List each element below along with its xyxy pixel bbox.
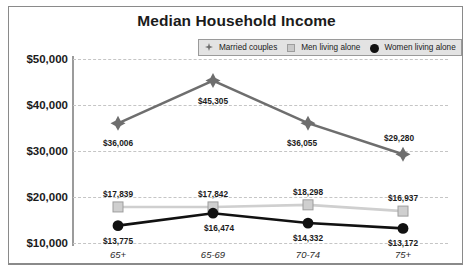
data-point-label: $16,474: [204, 223, 234, 233]
series-line: [118, 81, 403, 155]
data-point-label: $45,305: [198, 96, 228, 106]
x-axis-tick-label: 65+: [110, 249, 126, 260]
data-point-label: $18,298: [293, 187, 323, 197]
data-point-label: $17,839: [103, 189, 133, 199]
data-point-label: $16,937: [388, 193, 418, 203]
data-point-marker[interactable]: [111, 116, 126, 131]
data-point-label: $36,006: [103, 138, 133, 148]
data-point-label: $36,055: [287, 138, 317, 148]
series-line: [118, 205, 403, 211]
data-point-label: $14,332: [293, 233, 323, 243]
data-point-label: $29,280: [384, 133, 414, 143]
data-point-marker[interactable]: [208, 208, 219, 219]
x-axis-tick-labels: 65+65-6970-7475+: [73, 249, 448, 265]
x-axis-tick-label: 70-74: [296, 249, 320, 260]
x-axis-tick-label: 65-69: [201, 249, 225, 260]
chart-container: Median Household Income Married couples …: [0, 0, 473, 273]
data-point-label: $13,172: [388, 238, 418, 248]
data-point-label: $17,842: [198, 189, 228, 199]
data-point-marker[interactable]: [113, 220, 124, 231]
data-point-marker[interactable]: [303, 200, 313, 210]
data-point-marker[interactable]: [206, 73, 221, 88]
data-point-marker[interactable]: [396, 147, 411, 162]
series-line: [118, 213, 403, 228]
x-axis-tick-label: 75+: [395, 249, 411, 260]
data-point-marker[interactable]: [398, 223, 409, 234]
chart-baseline: [8, 264, 463, 265]
data-point-marker[interactable]: [398, 206, 408, 216]
data-point-marker[interactable]: [113, 202, 123, 212]
data-point-marker[interactable]: [303, 218, 314, 229]
data-point-label: $13,775: [103, 236, 133, 246]
data-point-marker[interactable]: [301, 116, 316, 131]
